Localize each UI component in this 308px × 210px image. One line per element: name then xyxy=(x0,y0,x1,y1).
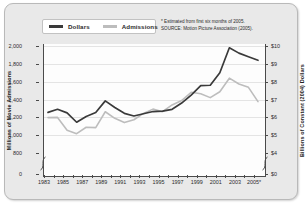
left-axis-tick-label: 1,200 xyxy=(9,114,23,120)
x-axis-tick xyxy=(73,175,74,178)
right-axis-tick-label: $7 xyxy=(271,97,277,103)
x-axis-tick xyxy=(187,175,188,178)
x-axis-tick xyxy=(120,175,121,178)
x-axis-tick xyxy=(111,175,112,178)
left-axis-tick-label: 1,600 xyxy=(9,79,23,85)
right-axis-tick xyxy=(266,153,269,154)
left-axis-tick-label: 1,400 xyxy=(9,97,23,103)
x-axis-tick xyxy=(216,175,217,178)
right-axis-tick-label: $10 xyxy=(271,43,280,49)
right-axis-tick-label: $5 xyxy=(271,132,277,138)
right-axis-tick xyxy=(266,117,269,118)
x-axis-tick xyxy=(44,175,45,178)
x-axis-tick xyxy=(63,175,64,178)
left-axis-tick-label: 1,800 xyxy=(9,61,23,67)
x-axis-tick-label: 1999 xyxy=(191,179,203,185)
right-axis-tick-label: $8 xyxy=(271,79,277,85)
axis-break-squiggle xyxy=(263,157,268,170)
right-axis-tick xyxy=(266,82,269,83)
x-axis-tick xyxy=(254,175,255,178)
x-axis-tick xyxy=(197,175,198,178)
x-axis-tick xyxy=(149,175,150,178)
x-axis-tick-label: 2005* xyxy=(247,179,261,185)
left-axis-tick-label: 0 xyxy=(19,171,22,177)
x-axis-tick-label: 1991 xyxy=(114,179,126,185)
left-axis-tick-label: 2,000 xyxy=(9,43,23,49)
right-axis-tick xyxy=(266,100,269,101)
x-axis-tick xyxy=(159,175,160,178)
left-axis-tick-label: 1,000 xyxy=(9,132,23,138)
x-axis-tick xyxy=(235,175,236,178)
left-axis-tick xyxy=(36,46,39,47)
left-axis-tick xyxy=(36,135,39,136)
left-axis-tick xyxy=(36,82,39,83)
x-axis-tick xyxy=(178,175,179,178)
x-axis-tick-label: 1983 xyxy=(38,179,50,185)
right-axis-tick xyxy=(266,135,269,136)
x-axis-tick xyxy=(206,175,207,178)
x-axis-tick xyxy=(101,175,102,178)
right-axis-tick-label: $6 xyxy=(271,114,277,120)
x-axis-tick-label: 1993 xyxy=(133,179,145,185)
x-axis-tick xyxy=(130,175,131,178)
x-axis-tick xyxy=(139,175,140,178)
x-axis-tick-label: 1985 xyxy=(57,179,69,185)
x-axis-tick-label: 1995 xyxy=(153,179,165,185)
series-line-dollars xyxy=(48,48,258,122)
series-line-admissions xyxy=(48,78,258,133)
x-axis-tick-label: 2003 xyxy=(229,179,241,185)
left-axis-tick xyxy=(36,64,39,65)
x-axis-tick xyxy=(244,175,245,178)
right-axis-tick-label: $9 xyxy=(271,61,277,67)
x-axis-tick xyxy=(225,175,226,178)
left-axis-tick-label: 800 xyxy=(13,150,22,156)
right-axis-tick xyxy=(266,64,269,65)
x-axis-tick xyxy=(168,175,169,178)
x-axis-tick xyxy=(92,175,93,178)
right-axis-tick-label: $4 xyxy=(271,150,277,156)
x-axis-tick xyxy=(54,175,55,178)
right-axis-tick-label: $0 xyxy=(271,171,277,177)
right-axis-tick xyxy=(266,46,269,47)
left-axis-tick xyxy=(36,117,39,118)
x-axis-tick-label: 1997 xyxy=(172,179,184,185)
left-axis-tick xyxy=(36,174,39,175)
chart-frame: Dollars Admissions * Estimated from firs… xyxy=(4,3,298,200)
left-axis-tick xyxy=(36,153,39,154)
axis-break-squiggle xyxy=(41,157,46,170)
right-axis-tick xyxy=(266,174,269,175)
x-axis-tick-label: 1987 xyxy=(76,179,88,185)
x-axis-tick xyxy=(82,175,83,178)
x-axis-tick-label: 1989 xyxy=(95,179,107,185)
left-axis-tick xyxy=(36,100,39,101)
x-axis-tick-label: 2001 xyxy=(210,179,222,185)
